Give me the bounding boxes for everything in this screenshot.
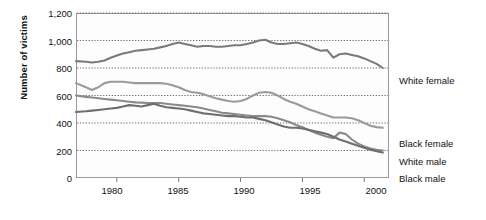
x-tick-1980: 1980 (92, 186, 132, 196)
y-tick-200: 200 (28, 147, 72, 157)
y-tick-0: 0 (28, 174, 72, 184)
plot-area (76, 13, 389, 178)
legend-label-white-female: White female (399, 76, 454, 86)
x-tick-2000: 2000 (356, 186, 396, 196)
legend-label-white-male: White male (399, 157, 447, 167)
y-tick-600: 600 (28, 92, 72, 102)
legend-label-black-female: Black female (399, 139, 453, 149)
chart-root: Number of victims 1,200 1,000 800 600 40… (0, 0, 486, 220)
x-tick-1990: 1990 (224, 186, 264, 196)
x-tick-1995: 1995 (290, 186, 330, 196)
legend-label-black-male: Black male (399, 174, 445, 184)
y-tick-400: 400 (28, 119, 72, 129)
y-tick-800: 800 (28, 64, 72, 74)
y-tick-1200: 1,200 (28, 9, 72, 19)
y-tick-1000: 1,000 (28, 37, 72, 47)
x-tick-marks (117, 178, 364, 182)
y-axis-ticks: 1,200 1,000 800 600 400 200 0 (26, 0, 72, 220)
x-tick-1985: 1985 (158, 186, 198, 196)
